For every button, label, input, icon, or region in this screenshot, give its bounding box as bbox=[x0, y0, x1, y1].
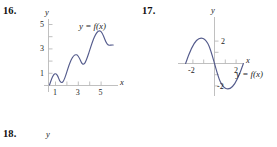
y-ticks-16 bbox=[49, 25, 53, 74]
figure-18: 18. y bbox=[0, 110, 277, 147]
y-axis-label-18: y bbox=[46, 130, 50, 139]
x-tick-label-16-5: 5 bbox=[99, 89, 103, 97]
function-label-17: y = f(x) bbox=[236, 70, 263, 79]
x-axis-label-16: x bbox=[120, 78, 124, 87]
x-axis-label-17: x bbox=[246, 56, 250, 65]
y-tick-label-16-3: 3 bbox=[40, 45, 44, 53]
x-tick-label-17-neg2: -2 bbox=[188, 67, 195, 75]
figure-16-plot bbox=[0, 0, 138, 110]
figure-16: 16. y x 1 3 5 1 3 5 y = f( bbox=[0, 0, 138, 110]
x-tick-label-16-1: 1 bbox=[53, 89, 57, 97]
figure-17-plot bbox=[138, 0, 277, 110]
figure-17: 17. y x -2 2 2 -2 y = f(x) bbox=[138, 0, 277, 110]
x-tick-label-16-3: 3 bbox=[76, 89, 80, 97]
y-tick-label-16-1: 1 bbox=[40, 70, 44, 78]
y-axis-label-16: y bbox=[45, 8, 49, 17]
curve-16 bbox=[50, 31, 114, 85]
y-tick-label-17-neg2: -2 bbox=[217, 83, 224, 91]
y-axis-label-17: y bbox=[211, 6, 215, 15]
y-tick-label-16-5: 5 bbox=[40, 21, 44, 29]
exercise-number-18: 18. bbox=[3, 129, 16, 140]
function-label-16: y = f(x) bbox=[79, 22, 106, 31]
y-tick-label-17-2: 2 bbox=[221, 38, 225, 46]
